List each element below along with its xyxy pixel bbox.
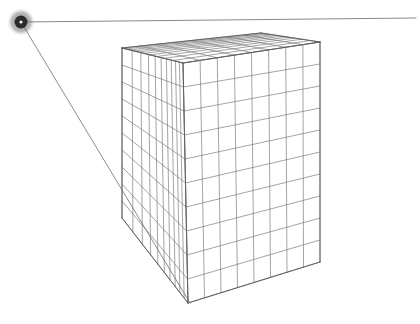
perspective-scene — [0, 0, 420, 324]
horizon-line — [21, 18, 416, 22]
cube-edge — [122, 218, 188, 303]
cube-grid-line-top — [173, 41, 310, 61]
vanishing-point-center — [19, 20, 22, 23]
construction-ray — [21, 22, 190, 303]
cube-grid-line-horizontal — [122, 82, 184, 111]
cube-grid-line-horizontal — [122, 116, 185, 159]
cube-grid-line-horizontal — [122, 201, 188, 279]
cube-grid-line-horizontal — [122, 99, 185, 135]
cube-edges — [122, 33, 320, 303]
perspective-drawing-canvas — [0, 0, 420, 324]
perspective-construction-lines — [21, 18, 416, 303]
cube-grid-line-horizontal — [122, 65, 184, 87]
vanishing-point-marker[interactable] — [10, 11, 32, 33]
cube-grid-line-horizontal — [122, 133, 186, 183]
cube-grid-lines — [122, 33, 320, 303]
